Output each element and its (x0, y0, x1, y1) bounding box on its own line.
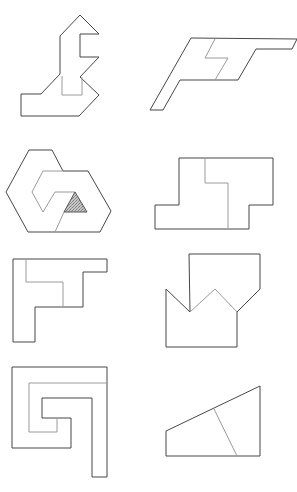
shape-6-inner-lines (190, 289, 237, 312)
inner-divider-line (26, 259, 63, 307)
shape-1-inner-lines (62, 76, 82, 95)
shaded-triangle (64, 192, 87, 212)
shape-3 (6, 150, 111, 232)
shape-6-outline (166, 254, 260, 347)
shape-6 (166, 254, 260, 347)
shape-2-inner-lines (205, 39, 228, 80)
shape-8 (166, 386, 260, 456)
shape-7-inner-lines (29, 383, 107, 432)
shape-1-outline (21, 15, 99, 116)
shape-7 (12, 367, 107, 477)
shape-3-outline (6, 150, 111, 232)
inner-divider-line (214, 409, 237, 456)
inner-divider-line (205, 158, 228, 229)
shape-4-outline (155, 158, 273, 229)
shape-2-outline (150, 38, 297, 110)
inner-divider-line (55, 212, 64, 232)
shape-4-inner-lines (205, 158, 228, 229)
shape-5 (13, 259, 107, 342)
inner-divider-line (29, 383, 107, 432)
puzzle-figure-canvas (0, 0, 297, 492)
shape-4 (155, 158, 273, 229)
inner-divider-line (190, 289, 237, 312)
shape-5-inner-lines (26, 259, 63, 307)
shape-8-inner-lines (214, 409, 237, 456)
shape-3-inner-lines (32, 171, 75, 232)
shape-5-outline (13, 259, 107, 342)
shape-8-outline (166, 386, 260, 456)
inner-divider-line (205, 39, 228, 80)
shape-2 (150, 38, 297, 110)
inner-divider-line (62, 76, 82, 95)
shape-1 (21, 15, 99, 116)
